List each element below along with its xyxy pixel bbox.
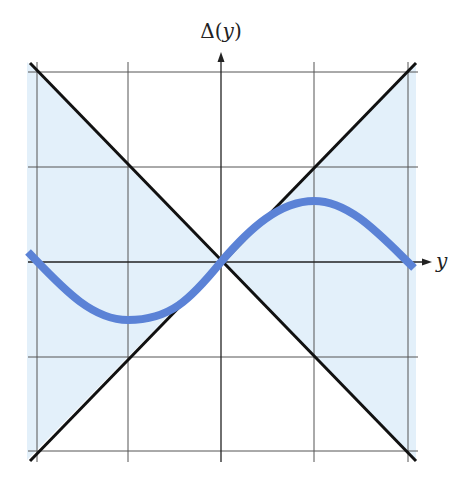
x-axis-arrow-icon bbox=[422, 259, 432, 266]
x-axis-label: y bbox=[435, 249, 448, 273]
y-axis-label: Δ(y) bbox=[200, 19, 241, 43]
diagram-canvas: Δ(y) y bbox=[0, 0, 470, 478]
shaded-region-left bbox=[27, 62, 221, 460]
shaded-region-right bbox=[221, 62, 416, 460]
y-axis-arrow-icon bbox=[218, 52, 225, 62]
